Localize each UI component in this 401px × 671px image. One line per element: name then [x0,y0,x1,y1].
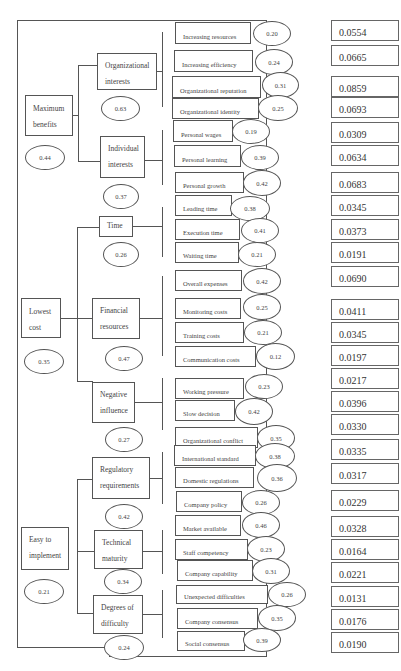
local-weight: 0.23 [258,383,269,390]
subcriterion-label: Market available [183,525,227,532]
subcriterion-label: Domestic regulations [183,477,238,484]
global-weight-box: 0.0859 [331,76,399,97]
subcriterion-box: Communication costs [175,346,256,367]
global-weight: 0.0665 [339,52,367,63]
global-weight-box: 0.0131 [331,586,399,607]
global-weight: 0.0335 [339,446,367,457]
local-weight-ellipse: 0.25 [243,294,281,320]
criterion-label: maturity [102,553,142,564]
local-weight: 0.31 [275,82,286,89]
goal-label: Lowest [29,306,60,317]
global-weight: 0.0176 [339,616,367,627]
local-weight-ellipse: 0.20 [253,21,291,46]
global-weight: 0.0554 [339,27,367,38]
subcriterion-label: Monitoring costs [183,308,227,315]
global-weight-box: 0.0191 [331,242,399,263]
local-weight: 0.36 [271,475,282,482]
criterion-box: Degrees of difficulty [93,595,143,634]
subcriterion-label: Execution time [183,229,223,236]
local-weight-ellipse: 0.42 [243,268,281,294]
criterion-box: Individual interests [100,136,145,178]
local-weight: 0.19 [245,128,256,135]
local-weight-ellipse: 0.31 [262,72,299,98]
criterion-box: Financial resources [92,298,140,339]
subcriterion-label: Communication costs [183,356,240,363]
connector [133,226,162,227]
subcriterion-label: Training costs [183,332,220,339]
local-weight: 0.26 [281,591,292,598]
subcriterion-label: Staff competency [183,549,229,556]
goal-label: benefits [33,119,72,130]
global-weight: 0.0373 [339,226,367,237]
subcriterion-box: Leading time [175,195,232,216]
global-weight-box: 0.0317 [331,463,399,484]
global-weight: 0.0345 [339,202,367,213]
global-weight-box: 0.0411 [331,299,399,320]
global-weight: 0.0345 [339,329,367,340]
criterion-box: Negative influence [92,382,135,423]
global-weight-box: 0.0221 [331,562,399,583]
local-weight-ellipse: 0.19 [232,119,270,144]
criterion-weight-ellipse: 0.42 [105,504,143,529]
global-weight: 0.0328 [339,523,367,534]
connector [135,402,162,403]
subcriterion-label: International standard [182,455,239,462]
local-weight-ellipse: 0.25 [258,95,298,121]
subcriterion-label: Company capability [185,570,238,577]
criterion-weight: 0.63 [115,105,126,112]
subcriterion-label: Company consensus [185,618,238,625]
local-weight-ellipse: 0.36 [257,464,297,492]
subcriterion-box: Organizational identity [172,98,259,119]
goal-box-easy-to-implement: Easy to implement [21,527,69,570]
global-weight: 0.0164 [339,546,367,557]
criterion-weight-ellipse: 0.24 [104,635,144,660]
local-weight-ellipse: 0.12 [256,343,295,370]
connector [77,479,78,613]
subcriterion-box: Market available [175,515,241,536]
goal-label: implement [29,550,68,561]
local-weight-ellipse: 0.38 [230,196,270,221]
connector [77,551,95,552]
local-weight-ellipse: 0.39 [241,145,279,170]
global-weight-box: 0.0373 [331,219,399,240]
subcriterion-label: Slow decision [183,410,220,417]
connector [162,130,163,185]
local-weight: 0.12 [270,353,281,360]
criterion-label: Time [107,220,132,231]
local-weight-ellipse: 0.42 [235,398,273,425]
subcriterion-box: Overall expenses [175,270,242,291]
local-weight: 0.23 [260,546,271,553]
global-weight-box: 0.0690 [331,266,399,287]
local-weight-ellipse: 0.42 [243,170,281,196]
goal-box-lowest-cost: Lowest cost [21,298,61,338]
criterion-weight: 0.26 [115,251,126,258]
global-weight: 0.0197 [339,352,367,363]
local-weight: 0.21 [257,329,268,336]
frame-top [17,20,267,21]
global-weight: 0.0191 [339,249,367,260]
subcriterion-box: Personal growth [175,172,244,193]
subcriterion-box: International standard [174,445,256,466]
criterion-label: resources [100,321,139,332]
connector [162,276,163,356]
subcriterion-box: Organizational reputation [172,76,261,98]
local-weight: 0.46 [255,522,266,529]
subcriterion-box: Execution time [175,219,240,240]
connector [162,32,163,107]
local-weight-ellipse: 0.39 [243,628,281,652]
connector [77,227,78,381]
criterion-label: difficulty [101,618,142,629]
frame-left [17,20,18,647]
subcriterion-box: Slow decision [175,400,235,421]
subcriterion-box: Domestic regulations [175,467,254,488]
criterion-weight: 0.47 [118,355,129,362]
subcriterion-label: Waiting time [183,252,217,259]
subcriterion-box: Company capability [177,560,253,581]
global-weight: 0.0693 [339,104,367,115]
criterion-box: Time [99,216,133,237]
connector [78,161,100,162]
criterion-label: Individual [108,143,144,154]
local-weight: 0.31 [265,568,276,575]
local-weight: 0.38 [244,205,255,212]
connector [143,551,162,552]
